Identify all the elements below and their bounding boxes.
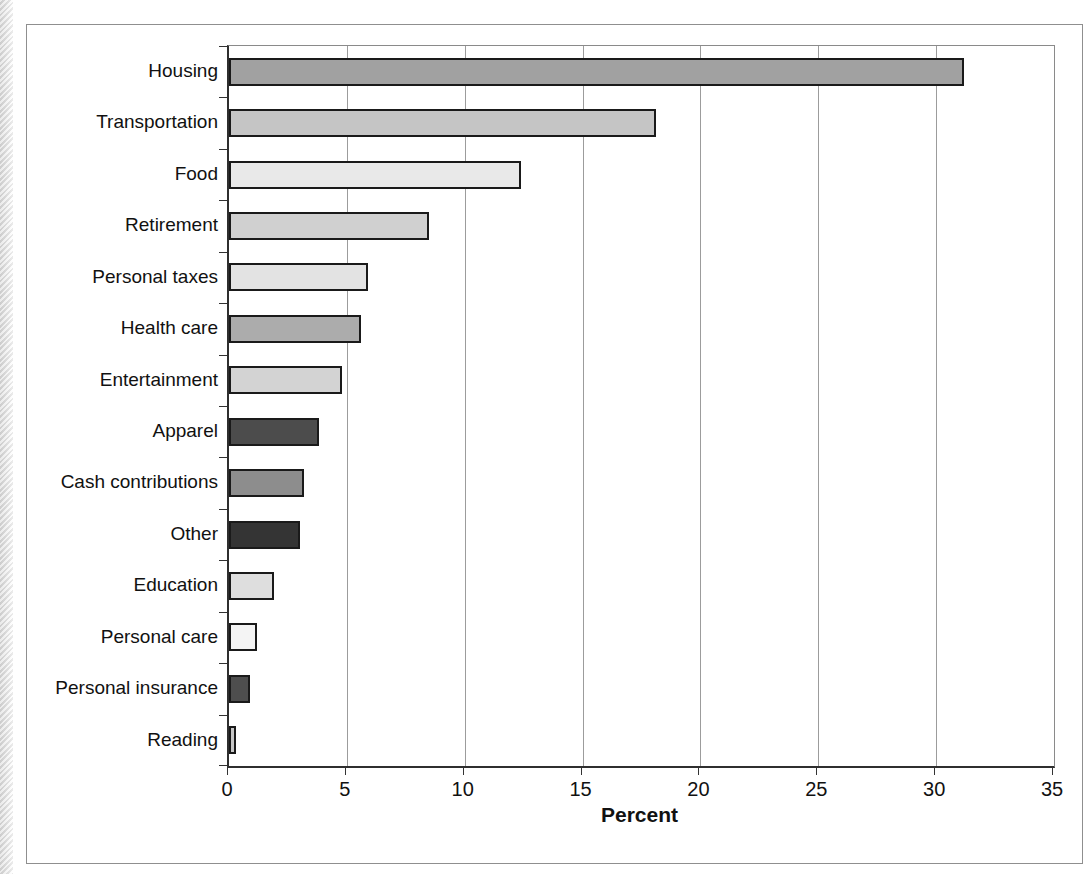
y-tick xyxy=(219,252,227,253)
category-label-housing: Housing xyxy=(20,45,218,96)
y-tick xyxy=(219,612,227,613)
category-label-reading: Reading xyxy=(20,714,218,765)
y-tick xyxy=(219,560,227,561)
x-tick-20 xyxy=(698,767,699,775)
category-label-food: Food xyxy=(20,148,218,199)
category-label-health-care: Health care xyxy=(20,302,218,353)
gridline-30 xyxy=(936,46,937,766)
x-tick-30 xyxy=(934,767,935,775)
y-tick xyxy=(219,663,227,664)
y-tick xyxy=(219,509,227,510)
y-tick xyxy=(219,457,227,458)
y-tick xyxy=(219,406,227,407)
gridline-5 xyxy=(347,46,348,766)
category-label-cash-contributions: Cash contributions xyxy=(20,456,218,507)
x-tick-label-0: 0 xyxy=(197,778,257,801)
bar-transportation xyxy=(229,109,656,137)
x-tick-label-20: 20 xyxy=(668,778,728,801)
x-tick-0 xyxy=(227,767,228,775)
x-tick-label-5: 5 xyxy=(315,778,375,801)
gridline-20 xyxy=(700,46,701,766)
gridline-25 xyxy=(818,46,819,766)
x-tick-15 xyxy=(581,767,582,775)
x-tick-label-35: 35 xyxy=(1022,778,1082,801)
page-scan-edge xyxy=(0,0,13,874)
bar-reading xyxy=(229,726,236,754)
bar-apparel xyxy=(229,418,319,446)
bar-retirement xyxy=(229,212,429,240)
y-tick xyxy=(219,715,227,716)
bar-education xyxy=(229,572,274,600)
y-tick xyxy=(219,149,227,150)
bar-cash-contributions xyxy=(229,469,304,497)
y-tick xyxy=(219,355,227,356)
category-label-apparel: Apparel xyxy=(20,405,218,456)
x-tick-label-15: 15 xyxy=(551,778,611,801)
y-tick xyxy=(219,46,227,47)
category-label-entertainment: Entertainment xyxy=(20,354,218,405)
bar-personal-taxes xyxy=(229,263,368,291)
x-tick-10 xyxy=(463,767,464,775)
plot-area xyxy=(227,45,1055,768)
x-axis-title: Percent xyxy=(227,803,1052,827)
category-label-education: Education xyxy=(20,559,218,610)
category-label-personal-care: Personal care xyxy=(20,611,218,662)
category-label-retirement: Retirement xyxy=(20,199,218,250)
x-tick-35 xyxy=(1052,767,1053,775)
x-tick-label-30: 30 xyxy=(904,778,964,801)
y-tick xyxy=(219,97,227,98)
category-label-personal-insurance: Personal insurance xyxy=(20,662,218,713)
category-label-other: Other xyxy=(20,508,218,559)
bar-other xyxy=(229,521,300,549)
scanned-page: { "chart_data": { "type": "bar", "orient… xyxy=(0,0,1090,874)
y-tick xyxy=(219,303,227,304)
bar-health-care xyxy=(229,315,361,343)
bar-entertainment xyxy=(229,366,342,394)
x-tick-label-10: 10 xyxy=(433,778,493,801)
category-label-transportation: Transportation xyxy=(20,96,218,147)
gridline-15 xyxy=(583,46,584,766)
bar-food xyxy=(229,161,521,189)
x-tick-5 xyxy=(345,767,346,775)
y-tick xyxy=(219,200,227,201)
category-label-personal-taxes: Personal taxes xyxy=(20,251,218,302)
bar-personal-care xyxy=(229,623,257,651)
x-tick-label-25: 25 xyxy=(786,778,846,801)
y-tick xyxy=(219,765,227,766)
bar-personal-insurance xyxy=(229,675,250,703)
x-tick-25 xyxy=(816,767,817,775)
bar-housing xyxy=(229,58,964,86)
gridline-10 xyxy=(465,46,466,766)
